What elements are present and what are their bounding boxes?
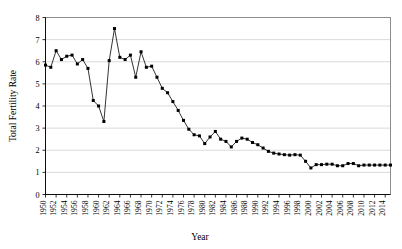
x-axis-tick-label: 1982 bbox=[208, 200, 217, 215]
data-point-marker bbox=[336, 164, 339, 167]
data-point-marker bbox=[341, 164, 344, 167]
data-point-marker bbox=[161, 87, 164, 90]
data-point-marker bbox=[134, 76, 137, 79]
data-point-marker bbox=[235, 140, 238, 143]
fertility-rate-line-chart: 012345678 195019521954195619581960196219… bbox=[0, 0, 402, 249]
data-point-marker bbox=[325, 163, 328, 166]
x-axis-tick-label: 1976 bbox=[177, 200, 186, 215]
data-point-marker bbox=[124, 58, 127, 61]
x-axis-tick-label: 1988 bbox=[240, 200, 249, 215]
data-point-marker bbox=[198, 134, 201, 137]
data-point-marker bbox=[118, 56, 121, 59]
x-axis-tick-label: 2002 bbox=[315, 200, 324, 215]
x-axis-tick-label: 1966 bbox=[123, 200, 132, 215]
y-axis-tick-label: 0 bbox=[35, 191, 39, 200]
data-point-marker bbox=[304, 160, 307, 163]
x-axis-tick-label: 1970 bbox=[145, 200, 154, 215]
data-point-marker bbox=[272, 152, 275, 155]
x-axis-tick-label: 2006 bbox=[336, 200, 345, 215]
x-axis-tick-label: 2008 bbox=[346, 200, 355, 215]
data-point-marker bbox=[113, 27, 116, 30]
data-point-marker bbox=[86, 67, 89, 70]
x-axis-tick-label: 1984 bbox=[219, 200, 228, 215]
data-point-marker bbox=[65, 55, 68, 58]
y-axis-tick-label: 4 bbox=[35, 102, 39, 111]
x-axis-tick-label: 1962 bbox=[102, 200, 111, 215]
x-axis-tick-label: 1950 bbox=[39, 200, 48, 215]
data-point-marker bbox=[177, 109, 180, 112]
x-axis-tick-label: 1992 bbox=[261, 200, 270, 215]
data-point-marker bbox=[224, 140, 227, 143]
x-axis-tick-label: 2012 bbox=[368, 200, 377, 215]
x-axis-tick-label: 1974 bbox=[166, 200, 175, 215]
data-point-marker bbox=[145, 66, 148, 69]
x-axis-tick-label: 1994 bbox=[272, 200, 281, 215]
x-axis-tick-label: 1954 bbox=[60, 200, 69, 215]
x-axis-tick-label: 1952 bbox=[49, 200, 58, 215]
data-point-marker bbox=[214, 130, 217, 133]
x-axis-tick-label: 1990 bbox=[251, 200, 260, 215]
x-axis-tick-label: 1980 bbox=[198, 200, 207, 215]
x-axis-tick-label: 1986 bbox=[230, 200, 239, 215]
data-point-marker bbox=[240, 137, 243, 140]
data-point-marker bbox=[246, 138, 249, 141]
data-point-marker bbox=[76, 62, 79, 65]
data-point-marker bbox=[309, 166, 312, 169]
data-point-marker bbox=[171, 100, 174, 103]
data-point-marker bbox=[182, 119, 185, 122]
data-point-marker bbox=[81, 58, 84, 61]
data-point-marker bbox=[155, 76, 158, 79]
data-point-marker bbox=[49, 66, 52, 69]
data-point-marker bbox=[347, 162, 350, 165]
x-axis-tick-label: 1996 bbox=[283, 200, 292, 215]
data-point-marker bbox=[230, 145, 233, 148]
data-point-marker bbox=[373, 164, 376, 167]
data-point-marker bbox=[71, 54, 74, 57]
data-point-marker bbox=[219, 138, 222, 141]
x-axis-tick-label: 1978 bbox=[187, 200, 196, 215]
data-point-marker bbox=[166, 91, 169, 94]
data-point-marker bbox=[320, 163, 323, 166]
chart-container: 012345678 195019521954195619581960196219… bbox=[0, 0, 402, 249]
data-point-marker bbox=[108, 59, 111, 62]
data-point-marker bbox=[384, 164, 387, 167]
data-point-marker bbox=[150, 65, 153, 68]
data-point-marker bbox=[187, 128, 190, 131]
data-point-marker bbox=[362, 164, 365, 167]
data-point-marker bbox=[288, 154, 291, 157]
y-axis-tick-label: 7 bbox=[35, 36, 39, 45]
data-point-marker bbox=[389, 164, 392, 167]
y-axis-title: Total Fertility Rate bbox=[8, 70, 18, 142]
data-point-marker bbox=[140, 50, 143, 53]
data-point-marker bbox=[251, 141, 254, 144]
y-axis-tick-label: 5 bbox=[35, 80, 39, 89]
data-point-marker bbox=[368, 164, 371, 167]
y-axis-tick-label: 1 bbox=[35, 168, 39, 177]
x-axis-tick-label: 1998 bbox=[293, 200, 302, 215]
data-point-marker bbox=[299, 154, 302, 157]
x-axis-tick-label: 1956 bbox=[70, 200, 79, 215]
data-point-marker bbox=[97, 105, 100, 108]
data-point-marker bbox=[102, 120, 105, 123]
x-axis-tick-label: 1958 bbox=[81, 200, 90, 215]
data-point-marker bbox=[283, 153, 286, 156]
y-axis-tick-label: 2 bbox=[35, 146, 39, 155]
data-point-marker bbox=[357, 164, 360, 167]
data-point-marker bbox=[278, 153, 281, 156]
x-axis-tick-label: 1972 bbox=[155, 200, 164, 215]
data-point-marker bbox=[352, 162, 355, 165]
data-point-marker bbox=[315, 163, 318, 166]
x-axis-tick-label: 1968 bbox=[134, 200, 143, 215]
data-point-marker bbox=[267, 150, 270, 153]
x-axis-title: Year bbox=[191, 232, 209, 242]
x-axis-tick-label: 2014 bbox=[378, 200, 387, 215]
data-point-marker bbox=[331, 163, 334, 166]
data-point-marker bbox=[293, 153, 296, 156]
data-point-marker bbox=[92, 99, 95, 102]
x-axis-tick-label: 1960 bbox=[92, 200, 101, 215]
data-point-marker bbox=[256, 143, 259, 146]
x-axis-tick-label: 2004 bbox=[325, 200, 334, 215]
x-axis-tick-label: 1964 bbox=[113, 200, 122, 215]
data-point-marker bbox=[193, 133, 196, 136]
data-point-marker bbox=[203, 142, 206, 145]
